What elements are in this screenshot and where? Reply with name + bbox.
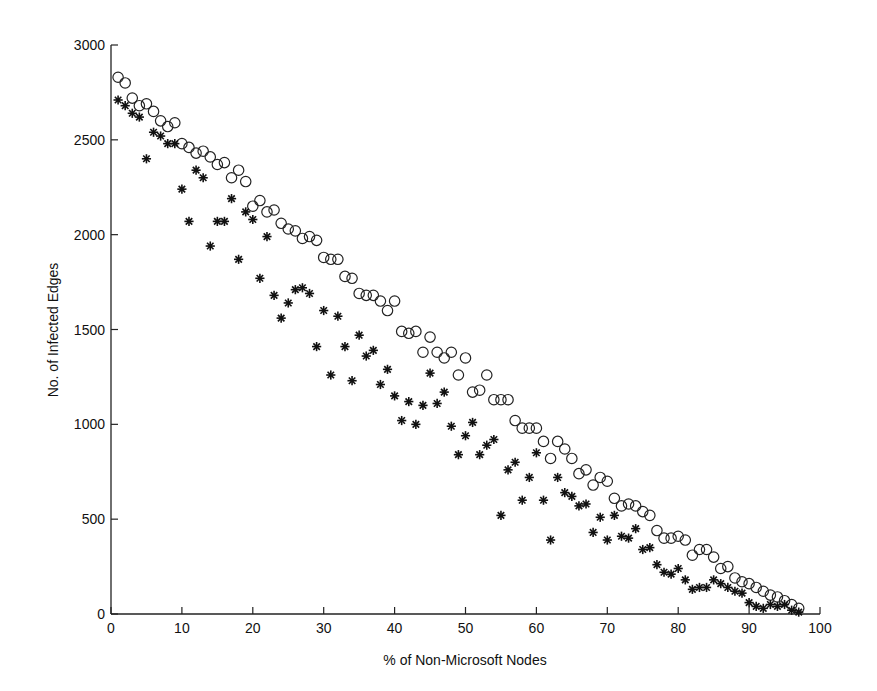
data-point-asterisk [553, 473, 562, 482]
data-point-asterisk [581, 499, 590, 508]
data-point-circle [460, 353, 470, 363]
y-axis-title: No. of Infected Edges [45, 263, 61, 398]
series-stars [113, 95, 803, 616]
data-point-asterisk [475, 450, 484, 459]
data-point-asterisk [688, 585, 697, 594]
data-point-asterisk [787, 606, 796, 615]
data-point-circle [297, 233, 307, 243]
data-point-asterisk [546, 535, 555, 544]
data-point-asterisk [574, 501, 583, 510]
data-point-asterisk [199, 173, 208, 182]
data-point-circle [418, 347, 428, 357]
data-point-asterisk [674, 564, 683, 573]
data-point-asterisk [624, 534, 633, 543]
data-point-asterisk [113, 95, 122, 104]
data-point-circle [241, 176, 251, 186]
data-point-asterisk [617, 532, 626, 541]
data-point-circle [439, 353, 449, 363]
data-point-asterisk [447, 422, 456, 431]
data-point-asterisk [667, 570, 676, 579]
x-tick-label: 90 [741, 620, 757, 636]
data-point-circle [396, 326, 406, 336]
data-point-circle [616, 501, 626, 511]
data-point-asterisk [610, 511, 619, 520]
x-tick-label: 50 [458, 620, 474, 636]
data-point-circle [368, 290, 378, 300]
data-point-circle [375, 296, 385, 306]
data-point-asterisk [461, 431, 470, 440]
data-point-asterisk [433, 399, 442, 408]
data-point-asterisk [362, 351, 371, 360]
data-point-circle [687, 550, 697, 560]
data-point-asterisk [170, 139, 179, 148]
x-axis-title: % of Non-Microsoft Nodes [383, 652, 546, 668]
data-point-asterisk [121, 101, 130, 110]
data-point-circle [212, 159, 222, 169]
data-point-circle [467, 387, 477, 397]
data-point-circle [389, 296, 399, 306]
data-point-asterisk [440, 387, 449, 396]
data-point-asterisk [652, 560, 661, 569]
series-circles [113, 72, 804, 613]
data-point-asterisk [291, 285, 300, 294]
data-point-asterisk [638, 545, 647, 554]
data-point-asterisk [355, 331, 364, 340]
data-point-circle [248, 201, 258, 211]
data-point-asterisk [539, 496, 548, 505]
x-tick-label: 70 [600, 620, 616, 636]
data-point-asterisk [333, 312, 342, 321]
data-point-circle [198, 146, 208, 156]
data-point-circle [567, 453, 577, 463]
data-point-asterisk [596, 513, 605, 522]
data-point-circle [446, 347, 456, 357]
data-point-circle [276, 218, 286, 228]
data-point-asterisk [496, 511, 505, 520]
data-point-circle [623, 499, 633, 509]
data-point-asterisk [567, 492, 576, 501]
data-point-circle [191, 148, 201, 158]
data-point-asterisk [766, 600, 775, 609]
data-point-asterisk [156, 131, 165, 140]
data-point-circle [666, 533, 676, 543]
data-point-circle [531, 423, 541, 433]
data-point-asterisk [773, 602, 782, 611]
data-point-circle [269, 205, 279, 215]
data-point-asterisk [340, 342, 349, 351]
y-tick-label: 2500 [74, 132, 105, 148]
data-point-asterisk [206, 241, 215, 250]
data-point-asterisk [702, 583, 711, 592]
data-point-asterisk [681, 575, 690, 584]
data-point-asterisk [326, 370, 335, 379]
data-point-asterisk [383, 365, 392, 374]
data-point-circle [453, 370, 463, 380]
axes: 0102030405060708090100050010001500200025… [74, 37, 832, 636]
data-point-asterisk [397, 416, 406, 425]
data-point-circle [474, 385, 484, 395]
data-point-circle [340, 271, 350, 281]
data-point-asterisk [390, 391, 399, 400]
data-point-asterisk [305, 289, 314, 298]
data-point-asterisk [248, 215, 257, 224]
data-point-circle [708, 552, 718, 562]
data-point-circle [503, 394, 513, 404]
data-point-asterisk [347, 376, 356, 385]
data-point-asterisk [454, 450, 463, 459]
scatter-chart: 0102030405060708090100050010001500200025… [0, 0, 877, 691]
y-tick-label: 3000 [74, 37, 105, 53]
data-point-asterisk [142, 154, 151, 163]
data-point-circle [560, 444, 570, 454]
data-point-asterisk [220, 217, 229, 226]
data-point-asterisk [255, 274, 264, 283]
data-point-asterisk [603, 535, 612, 544]
data-point-asterisk [659, 568, 668, 577]
y-tick-label: 0 [97, 606, 105, 622]
data-point-asterisk [227, 194, 236, 203]
data-point-circle [630, 501, 640, 511]
data-point-asterisk [631, 524, 640, 533]
data-point-circle [283, 224, 293, 234]
y-tick-label: 1500 [74, 322, 105, 338]
data-point-asterisk [404, 397, 413, 406]
data-point-asterisk [489, 435, 498, 444]
data-point-circle [148, 106, 158, 116]
data-point-circle [354, 288, 364, 298]
